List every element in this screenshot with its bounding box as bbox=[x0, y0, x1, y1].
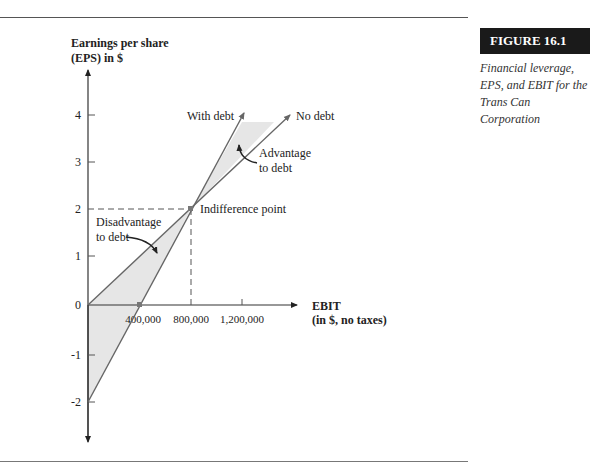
y-tick-label: 3 bbox=[75, 155, 81, 169]
x-axis-title-line1: EBIT bbox=[312, 299, 341, 313]
with-debt-label: With debt bbox=[187, 109, 235, 123]
x-axis-title-line2: (in $, no taxes) bbox=[312, 313, 387, 327]
indifference-point-marker bbox=[188, 206, 193, 211]
y-axis-title-line1: Earnings per share bbox=[71, 36, 169, 50]
advantage-label-line2: to debt bbox=[259, 161, 293, 175]
x-tick-label: 1,200,000 bbox=[220, 313, 265, 325]
breakeven-point-marker bbox=[137, 302, 142, 307]
indifference-point-label: Indifference point bbox=[200, 202, 287, 216]
y-tick-label: 1 bbox=[75, 249, 81, 263]
y-tick-label: 2 bbox=[75, 202, 81, 216]
y-tick-label: -2 bbox=[71, 395, 81, 409]
disadvantage-label-line2: to debt bbox=[96, 230, 130, 244]
advantage-label-line1: Advantage bbox=[259, 146, 311, 160]
y-tick-label: -1 bbox=[71, 348, 81, 362]
y-axis-title-line2: (EPS) in $ bbox=[71, 51, 123, 65]
eps-ebit-chart: 4 3 2 1 0 -1 -2 400,000 800,000 1,200,00… bbox=[0, 0, 590, 472]
with-debt-line bbox=[88, 113, 244, 402]
bottom-rule bbox=[0, 461, 468, 462]
no-debt-label: No debt bbox=[296, 109, 335, 123]
disadvantage-label-line1: Disadvantage bbox=[96, 215, 161, 229]
x-tick-label: 800,000 bbox=[173, 313, 209, 325]
y-tick-label: 0 bbox=[75, 298, 81, 312]
y-tick-label: 4 bbox=[75, 108, 81, 122]
